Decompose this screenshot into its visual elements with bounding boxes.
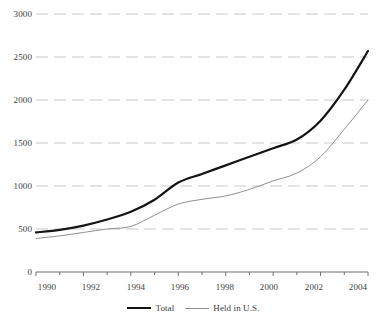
x-tick-label-1994: 1994 <box>118 283 154 292</box>
x-tick-label-1990: 1990 <box>29 283 65 292</box>
y-tick-label-500: 500 <box>0 225 32 234</box>
y-tick-label-3000: 3000 <box>0 10 32 19</box>
series-line-total <box>36 51 368 232</box>
x-tick-label-2002: 2002 <box>296 283 332 292</box>
y-tick-label-1500: 1500 <box>0 139 32 148</box>
series-line-held-in-u-s <box>36 100 368 238</box>
legend-entry-held-in-us: Held in U.S. <box>185 303 259 313</box>
legend-entry-total: Total <box>127 303 174 313</box>
y-tick-label-1000: 1000 <box>0 182 32 191</box>
x-tick-label-2004: 2004 <box>340 283 376 292</box>
y-tick-label-2500: 2500 <box>0 53 32 62</box>
legend-label-total: Total <box>155 303 174 313</box>
y-tick-label-0: 0 <box>0 268 32 277</box>
legend-line-swatch-held-in-us <box>185 308 209 309</box>
chart-legend: Total Held in U.S. <box>0 303 387 313</box>
chart-container: 3000 2500 2000 1500 1000 500 0 1990 1992… <box>0 0 387 322</box>
y-tick-label-2000: 2000 <box>0 96 32 105</box>
x-tick-label-2000: 2000 <box>251 283 287 292</box>
legend-label-held-in-us: Held in U.S. <box>213 303 259 313</box>
legend-line-swatch-total <box>127 307 151 309</box>
x-tick-label-1998: 1998 <box>207 283 243 292</box>
x-tick-label-1996: 1996 <box>162 283 198 292</box>
chart-plot-area <box>0 0 387 322</box>
x-tick-label-1992: 1992 <box>73 283 109 292</box>
